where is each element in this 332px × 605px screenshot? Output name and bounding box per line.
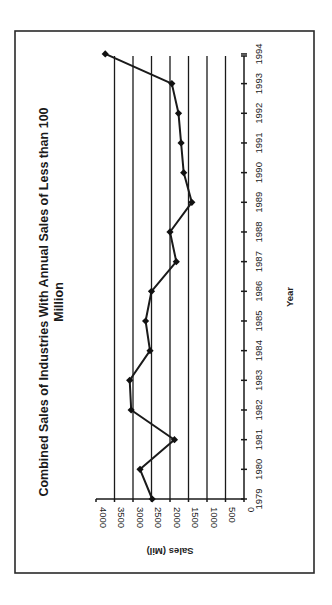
year-tick-label: 1980 <box>253 459 264 480</box>
year-tick-label: 1988 <box>253 221 264 242</box>
value-tick-label: 2500 <box>153 507 164 528</box>
value-tick-label: 2000 <box>172 507 183 528</box>
chart-title-line-2: Million <box>52 282 66 322</box>
data-point-marker <box>142 317 149 324</box>
value-tick-label: 1500 <box>190 507 201 528</box>
year-tick-label: 1992 <box>253 103 264 124</box>
data-point-marker <box>178 139 185 146</box>
data-point-marker <box>175 110 182 117</box>
year-tick-label: 1984 <box>253 340 264 361</box>
value-tick-label: 3000 <box>135 507 146 528</box>
year-tick-label: 1994 <box>253 43 264 64</box>
data-point-marker <box>180 169 187 176</box>
year-tick-label: 1990 <box>253 162 264 183</box>
data-point-marker <box>149 495 156 502</box>
year-tick-label: 1986 <box>253 281 264 302</box>
value-tick-label: 4000 <box>98 507 109 528</box>
value-axis: 05001000150020002500300035004000 <box>96 499 257 528</box>
x-axis-title: Year <box>284 287 295 307</box>
year-tick-label: 1981 <box>253 429 264 450</box>
year-tick-label: 1979 <box>253 488 264 509</box>
series-line <box>105 54 192 499</box>
year-tick-label: 1993 <box>253 73 264 94</box>
year-tick-label: 1983 <box>253 370 264 391</box>
value-tick-label: 3500 <box>116 507 127 528</box>
y-axis-title: Sales (Mil) <box>147 546 194 557</box>
data-point-marker <box>168 80 175 87</box>
year-tick-label: 1989 <box>253 192 264 213</box>
year-tick-label: 1982 <box>253 399 264 420</box>
chart-title: Combined Sales of Industries With Annual… <box>37 107 66 496</box>
year-tick-label: 1987 <box>253 251 264 272</box>
gridlines <box>115 56 226 499</box>
chart: 05001000150020002500300035004000 1979198… <box>0 0 332 605</box>
year-axis: 1979198019811982198319841985198619871988… <box>241 43 264 509</box>
data-series <box>102 50 196 502</box>
value-tick-label: 1000 <box>209 507 220 528</box>
year-tick-label: 1985 <box>253 310 264 331</box>
value-tick-label: 500 <box>227 507 238 523</box>
year-tick-label: 1991 <box>253 132 264 153</box>
chart-title-line-1: Combined Sales of Industries With Annual… <box>37 107 51 496</box>
data-point-marker <box>102 50 109 57</box>
